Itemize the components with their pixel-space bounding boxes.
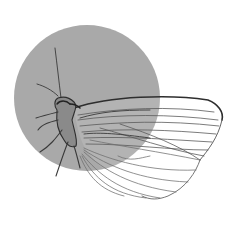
butterfly-illustration: Butterfly illustration	[0, 0, 250, 229]
